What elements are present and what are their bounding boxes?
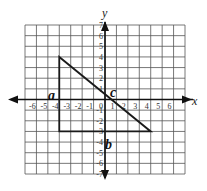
y-tick-label: 3 (99, 64, 103, 73)
side-label-c: c (110, 85, 117, 100)
x-tick-label: 1 (110, 102, 114, 111)
coordinate-plane: -6-5-4-3-2-101234567654321-1-2-3-4-5-6-7… (0, 0, 207, 191)
x-axis-left-arrow-icon (8, 96, 18, 104)
x-tick-label: 3 (133, 102, 137, 111)
x-tick-label: -2 (75, 102, 82, 111)
y-axis-label: y (101, 6, 108, 20)
y-tick-label: 2 (99, 74, 103, 83)
y-tick-label: 7 (99, 21, 103, 30)
side-label-a: a (48, 88, 55, 103)
x-tick-label: -5 (41, 102, 48, 111)
y-tick-label: -1 (96, 106, 103, 115)
y-tick-label: -5 (96, 149, 103, 158)
y-tick-label: -4 (96, 138, 103, 147)
y-tick-label: -7 (96, 170, 103, 179)
y-tick-label: 4 (99, 53, 103, 62)
side-label-b: b (105, 137, 112, 152)
y-tick-label: -2 (96, 117, 103, 126)
x-tick-label: 5 (156, 102, 160, 111)
x-tick-label: -6 (29, 102, 36, 111)
x-tick-label: 6 (168, 102, 172, 111)
x-axis-right-arrow-icon (182, 96, 192, 104)
x-tick-label: -1 (86, 102, 93, 111)
x-axis-label: x (191, 94, 198, 108)
x-tick-label: -3 (63, 102, 70, 111)
y-tick-label: 6 (99, 32, 103, 41)
y-tick-label: -6 (96, 159, 103, 168)
y-tick-label: 5 (99, 42, 103, 51)
x-tick-label: 4 (145, 102, 149, 111)
